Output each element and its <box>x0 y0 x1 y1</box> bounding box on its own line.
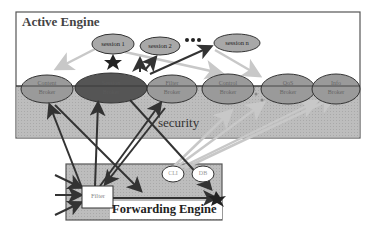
forwarding-engine-title: Forwarding Engine <box>112 202 217 217</box>
filter-label: Filter <box>84 192 112 199</box>
info-broker: Info Broker <box>316 79 356 97</box>
broker-suffix: Broker <box>27 88 67 97</box>
session-2-label: session 2 <box>142 42 178 49</box>
active-engine-title: Active Engine <box>22 14 100 30</box>
control-broker: Control Broker <box>208 79 248 97</box>
broker-name: Control <box>208 79 248 88</box>
broker-suffix: Broker <box>91 88 131 97</box>
broker-suffix: Broker <box>316 88 356 97</box>
broker-name: Session <box>91 79 131 88</box>
broker-name: Content <box>27 79 67 88</box>
ellipsis-dots <box>185 38 201 42</box>
security-label: security <box>158 115 199 131</box>
broker-suffix: Broker <box>152 88 192 97</box>
db-label: DB <box>193 170 213 176</box>
broker-suffix: Broker <box>268 88 308 97</box>
filter-broker: Filter Broker <box>152 79 192 97</box>
cli-label: CLI <box>163 170 183 176</box>
session-1-label: session 1 <box>95 40 131 47</box>
session-n-label: session n <box>219 39 255 46</box>
content-broker: Content Broker <box>27 79 67 97</box>
broker-name: Info <box>316 79 356 88</box>
broker-suffix: Broker <box>208 88 248 97</box>
session-broker: Session Broker <box>91 79 131 97</box>
broker-name: Filter <box>152 79 192 88</box>
qos-broker: QoS Broker <box>268 79 308 97</box>
broker-name: QoS <box>268 79 308 88</box>
